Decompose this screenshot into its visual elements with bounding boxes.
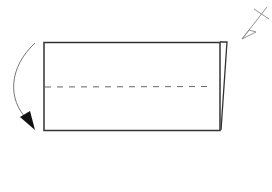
back-layer-flap xyxy=(220,42,227,130)
origami-diagram xyxy=(0,0,272,192)
fold-arrow xyxy=(14,43,35,130)
turn-over-symbol-icon xyxy=(242,7,269,39)
